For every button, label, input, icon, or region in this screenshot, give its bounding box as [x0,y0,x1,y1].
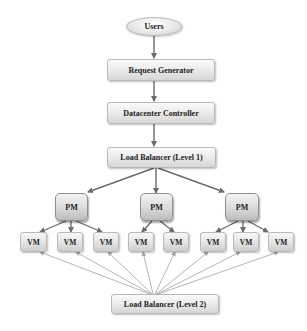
datacenter-controller-label: Datacenter Controller [123,109,198,118]
pm-label: PM [236,203,248,212]
pm-node-1: PM [55,193,88,221]
vm-label: VM [240,238,253,247]
pm-to-vm-arrows [40,221,268,232]
pm-label: PM [150,203,162,212]
vm-label: VM [275,238,288,247]
load-balancer-level-2-node: Load Balancer (Level 2) [111,294,219,314]
users-node: Users [126,17,182,36]
vm-label: VM [64,238,77,247]
vm-node-5: VM [163,232,189,252]
load-balancer-level-1-label: Load Balancer (Level 1) [120,153,202,162]
vm-node-1: VM [20,232,47,252]
pm-node-3: PM [225,193,259,221]
vm-label: VM [170,238,183,247]
vm-node-8: VM [268,232,294,252]
vm-node-7: VM [233,232,259,252]
lb1-to-pm-arrows [88,168,224,193]
pm-label: PM [65,203,77,212]
vm-label: VM [207,238,220,247]
request-generator-node: Request Generator [107,59,215,81]
request-generator-label: Request Generator [128,66,193,75]
architecture-diagram: Users Request Generator Datacenter Contr… [0,0,307,331]
datacenter-controller-node: Datacenter Controller [107,102,215,124]
vm-node-4: VM [128,232,154,252]
load-balancer-level-1-node: Load Balancer (Level 1) [107,147,216,168]
vm-node-2: VM [57,232,83,252]
pm-node-2: PM [140,193,173,221]
vm-label: VM [27,238,40,247]
users-label: Users [144,22,163,31]
vm-label: VM [135,238,148,247]
load-balancer-level-2-label: Load Balancer (Level 2) [124,300,206,309]
vm-label: VM [100,238,113,247]
vm-node-6: VM [200,232,226,252]
lb2-to-vm-lines [40,252,278,294]
vm-node-3: VM [93,232,119,252]
